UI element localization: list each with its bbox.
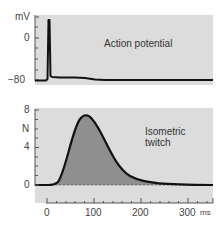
x-tick-200: 200 (132, 207, 149, 218)
action-potential-title: Action potential (104, 38, 172, 49)
bottom-y-tick-8: 8 (24, 104, 30, 115)
isometric-twitch-title-line1: Isometric (145, 126, 186, 137)
bottom-y-tick-0: 0 (24, 179, 30, 190)
x-tick-0: 0 (44, 207, 50, 218)
top-y-tick-0: 0 (24, 32, 30, 43)
x-tick-100: 100 (85, 207, 102, 218)
isometric-twitch-title-line2: twitch (145, 137, 171, 148)
top-y-tick-minus80: −80 (8, 74, 25, 85)
x-tick-300: 300 (179, 207, 196, 218)
isometric-twitch-panel (35, 108, 213, 203)
action-potential-panel (35, 15, 213, 85)
x-unit-label: ms (200, 208, 211, 217)
bottom-y-tick-4: 4 (24, 141, 30, 152)
bottom-y-unit-label: N (22, 123, 29, 134)
figure-graphics (0, 0, 224, 230)
top-y-unit-label: mV (15, 11, 30, 22)
